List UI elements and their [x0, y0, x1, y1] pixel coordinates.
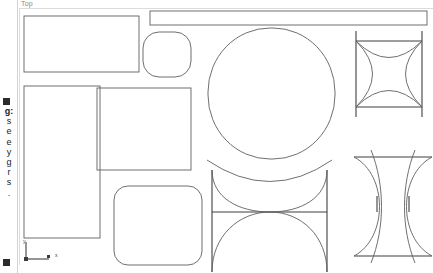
sidebar-char-4: y — [7, 147, 12, 157]
axis-x-label: x — [55, 252, 58, 258]
sidebar-char-6: r — [8, 167, 11, 177]
left-sidebar: g: s e e y g r s . — [0, 0, 18, 273]
drawing-canvas[interactable]: Top .g{ fill:none; stroke:#5f5f5f; strok… — [19, 0, 433, 273]
sidebar-char-5: g — [6, 157, 11, 167]
shape-rectangle-middle-center[interactable] — [97, 88, 191, 170]
geometry-layer: .g{ fill:none; stroke:#5f5f5f; stroke-wi… — [19, 0, 433, 273]
axis-y-label: y — [23, 238, 26, 244]
sidebar-char-1: s — [7, 116, 12, 126]
xy-axis-triad-icon — [24, 242, 50, 261]
sidebar-bullet-bottom-icon — [3, 259, 10, 266]
shape-squircle-upper-middle[interactable] — [143, 32, 191, 77]
shape-arc-star-square-top-right[interactable] — [356, 31, 422, 117]
sidebar-char-2: e — [6, 126, 11, 136]
shape-rectangle-middle-left[interactable] — [24, 86, 100, 238]
sidebar-char-8: . — [8, 188, 11, 198]
sidebar-bullet-top-icon — [3, 98, 10, 105]
application-window: g: s e e y g r s . Top .g{ fill:none; st… — [0, 0, 433, 273]
sidebar-wrapped-text: g: s e e y g r s . — [0, 106, 18, 198]
sidebar-char-0: g: — [5, 106, 14, 116]
sidebar-char-7: s — [7, 177, 12, 187]
sidebar-char-3: e — [6, 137, 11, 147]
shape-rectangle-top-left[interactable] — [24, 16, 139, 72]
shape-arc-hourglass-bottom-mid[interactable] — [207, 160, 332, 272]
shape-roundrect-bottom-left[interactable] — [114, 186, 202, 265]
shape-circle-center-large[interactable] — [208, 28, 335, 159]
shape-arc-lens-bottom-right[interactable] — [354, 150, 432, 263]
shape-rectangle-top-banner[interactable] — [150, 11, 427, 25]
